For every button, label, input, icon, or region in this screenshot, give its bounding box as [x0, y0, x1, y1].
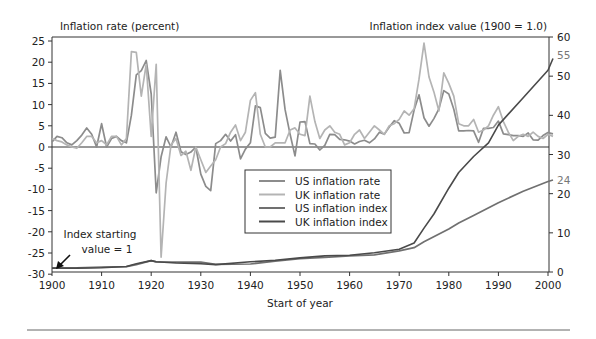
x-tick-label: 1910: [88, 279, 115, 291]
legend-label: US inflation rate: [295, 175, 380, 187]
left-axis-ticks: 2520151050-5-10-15-20-25-30: [28, 35, 52, 280]
index-start-annotation: Index starting value = 1: [56, 228, 136, 269]
right-highlight-label: 55: [557, 49, 570, 61]
left-tick-label: -25: [28, 247, 45, 259]
legend-label: UK inflation rate: [295, 189, 380, 201]
left-tick-label: 20: [32, 56, 45, 68]
left-tick-label: -10: [28, 183, 45, 195]
x-tick-label: 1900: [39, 279, 66, 291]
x-tick-label: 1990: [485, 279, 512, 291]
x-tick-label: 1960: [336, 279, 363, 291]
right-tick-label: 30: [557, 149, 570, 161]
legend-label: US inflation index: [295, 202, 388, 214]
left-tick-label: 15: [32, 77, 45, 89]
right-axis-ticks: 60504030201005524: [549, 31, 571, 278]
left-tick-label: 0: [38, 141, 45, 153]
left-tick-label: -15: [28, 205, 45, 217]
annotation-line2: value = 1: [82, 243, 133, 255]
right-axis-title: Inflation index value (1900 = 1.0): [370, 20, 547, 32]
legend-label: UK inflation index: [295, 216, 388, 228]
x-tick-label: 1950: [287, 279, 314, 291]
left-tick-label: 25: [32, 35, 45, 47]
left-tick-label: 5: [38, 120, 45, 132]
x-tick-label: 1970: [386, 279, 413, 291]
legend: US inflation rateUK inflation rateUS inf…: [245, 170, 391, 233]
left-tick-label: -20: [28, 226, 45, 238]
x-tick-label: 1980: [435, 279, 462, 291]
right-highlight-label: 24: [557, 174, 571, 186]
x-tick-label: 1930: [187, 279, 214, 291]
annotation-line1: Index starting: [64, 228, 137, 240]
left-axis-title: Inflation rate (percent): [60, 20, 179, 32]
right-tick-label: 0: [557, 266, 564, 278]
inflation-chart: Inflation rate (percent) Inflation index…: [0, 0, 596, 339]
x-tick-label: 1940: [237, 279, 264, 291]
left-tick-label: 10: [32, 99, 45, 111]
right-tick-label: 50: [557, 70, 570, 82]
right-tick-label: 40: [557, 109, 570, 121]
x-axis-title: Start of year: [267, 297, 334, 309]
x-tick-label: 1920: [138, 279, 165, 291]
right-tick-label: 60: [557, 31, 570, 43]
x-tick-label: 2000: [535, 279, 562, 291]
left-tick-label: -5: [35, 162, 45, 174]
arrow-icon: [60, 255, 70, 265]
x-axis-ticks: 1900191019201930194019501960197019801990…: [39, 272, 562, 291]
right-tick-label: 20: [557, 188, 570, 200]
right-tick-label: 10: [557, 227, 570, 239]
